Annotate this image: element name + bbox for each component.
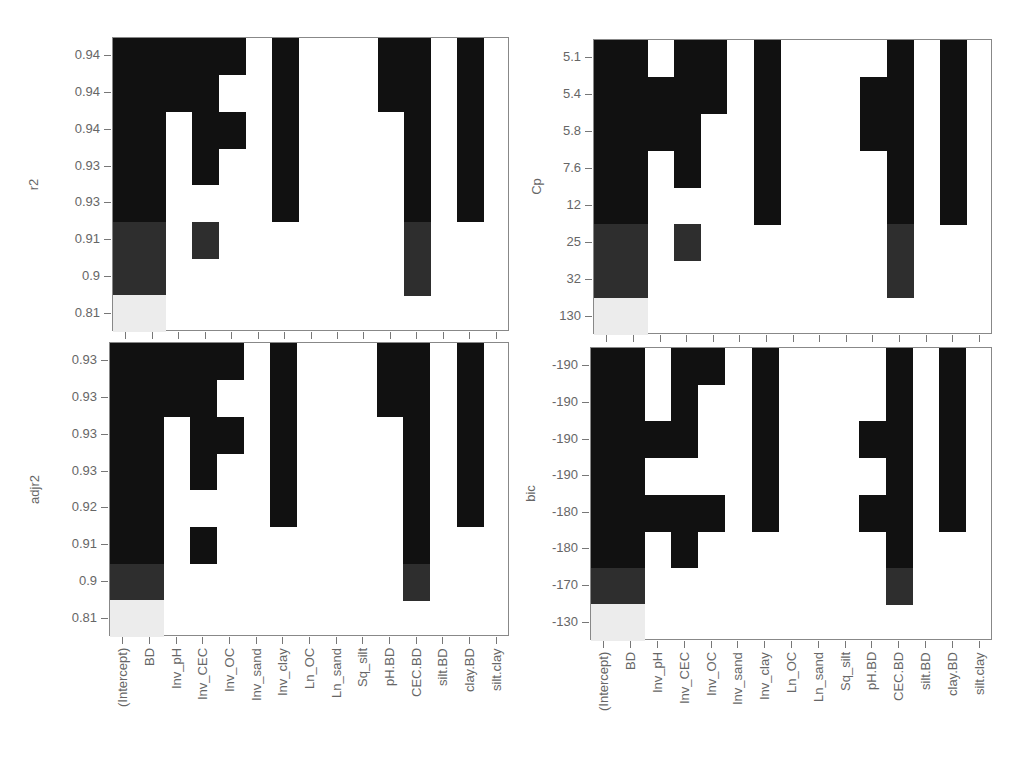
heatmap-cell — [621, 261, 648, 298]
heatmap-cell — [618, 385, 645, 422]
heatmap-cell — [190, 527, 217, 564]
x-axis-tick — [311, 332, 312, 339]
x-tick-label: Inv_clay — [757, 652, 772, 700]
y-tick-label: 0.94 — [40, 85, 100, 99]
heatmap-cell — [403, 343, 430, 380]
heatmap-cell — [166, 38, 193, 75]
heatmap-cell — [886, 348, 913, 385]
heatmap-cell — [621, 298, 648, 335]
x-axis-tick — [176, 637, 177, 644]
x-axis-tick — [686, 335, 687, 342]
heatmap-cell — [940, 40, 967, 77]
x-axis-tick — [657, 641, 658, 648]
y-tick-label: -170 — [518, 578, 578, 592]
y-tick-label: 0.93 — [37, 464, 97, 478]
x-tick-label: Inv_CEC — [677, 652, 692, 704]
heatmap-cell — [192, 38, 219, 75]
heatmap-cell — [110, 343, 137, 380]
heatmap-cell — [272, 185, 299, 222]
heatmap-cell — [618, 531, 645, 568]
heatmap-cell — [887, 151, 914, 188]
heatmap-cell — [594, 77, 621, 114]
x-axis-tick — [152, 332, 153, 339]
heatmap-cell — [621, 224, 648, 261]
heatmap-cell — [594, 188, 621, 225]
heatmap-cell — [621, 40, 648, 77]
x-tick-label: pH.BD — [382, 648, 397, 686]
heatmap-cell — [594, 151, 621, 188]
heatmap-cell — [272, 148, 299, 185]
x-axis-tick — [606, 335, 607, 342]
y-tick-label: 0.93 — [40, 159, 100, 173]
heatmap-cell — [404, 38, 431, 75]
y-axis-title: adjr2 — [26, 475, 41, 504]
y-tick-label: 0.93 — [37, 427, 97, 441]
y-axis-tick — [582, 365, 589, 366]
y-axis-tick — [582, 439, 589, 440]
heatmap-cell — [192, 112, 219, 149]
heatmap-cell — [939, 348, 966, 385]
heatmap-cell — [591, 495, 618, 532]
heatmap-cell — [940, 151, 967, 188]
heatmap-cell — [137, 600, 164, 637]
heatmap-cell — [403, 380, 430, 417]
y-tick-label: 0.94 — [40, 122, 100, 136]
y-axis-tick — [582, 548, 589, 549]
x-tick-label: Ln_sand — [329, 648, 344, 698]
heatmap-cell — [591, 385, 618, 422]
heatmap-cell — [270, 417, 297, 454]
heatmap-cell — [671, 421, 698, 458]
y-tick-label: 0.92 — [37, 500, 97, 514]
x-axis-tick — [362, 637, 363, 644]
x-axis-tick — [979, 335, 980, 342]
y-axis-tick — [104, 202, 111, 203]
y-axis-tick — [585, 131, 592, 132]
x-axis-tick — [739, 335, 740, 342]
heatmap-cell — [139, 295, 166, 332]
heatmap-plot-area — [109, 342, 509, 636]
heatmap-cell — [754, 77, 781, 114]
x-axis-tick — [205, 332, 206, 339]
heatmap-cell — [860, 77, 887, 114]
x-axis-tick — [125, 332, 126, 339]
heatmap-cell — [886, 495, 913, 532]
heatmap-cell — [457, 453, 484, 490]
y-axis-tick — [104, 276, 111, 277]
heatmap-cell — [940, 188, 967, 225]
x-tick-label: Sq_silt — [355, 648, 370, 687]
heatmap-cell — [219, 112, 246, 149]
x-axis-tick — [872, 335, 873, 342]
heatmap-cell — [594, 224, 621, 261]
y-axis-tick — [585, 94, 592, 95]
x-axis-tick — [122, 637, 123, 644]
heatmap-plot-area — [112, 37, 509, 331]
heatmap-cell — [647, 114, 674, 151]
heatmap-cell — [859, 421, 886, 458]
heatmap-cell — [272, 38, 299, 75]
heatmap-cell — [163, 380, 190, 417]
x-axis-tick — [871, 641, 872, 648]
heatmap-cell — [591, 604, 618, 641]
heatmap-cell — [404, 112, 431, 149]
heatmap-cell — [378, 75, 405, 112]
heatmap-cell — [377, 343, 404, 380]
heatmap-cell — [859, 495, 886, 532]
heatmap-cell — [110, 564, 137, 601]
heatmap-cell — [886, 421, 913, 458]
heatmap-cell — [887, 188, 914, 225]
heatmap-cell — [113, 295, 140, 332]
heatmap-cell — [270, 453, 297, 490]
heatmap-cell — [139, 148, 166, 185]
heatmap-cell — [939, 495, 966, 532]
heatmap-cell — [404, 148, 431, 185]
heatmap-cell — [110, 380, 137, 417]
x-axis-tick — [442, 637, 443, 644]
x-tick-label: (Intercept) — [115, 648, 130, 707]
heatmap-cell — [671, 495, 698, 532]
x-axis-tick — [469, 637, 470, 644]
x-axis-tick — [389, 637, 390, 644]
y-axis-tick — [101, 581, 108, 582]
y-tick-label: -190 — [518, 395, 578, 409]
heatmap-cell — [190, 380, 217, 417]
heatmap-cell — [457, 112, 484, 149]
